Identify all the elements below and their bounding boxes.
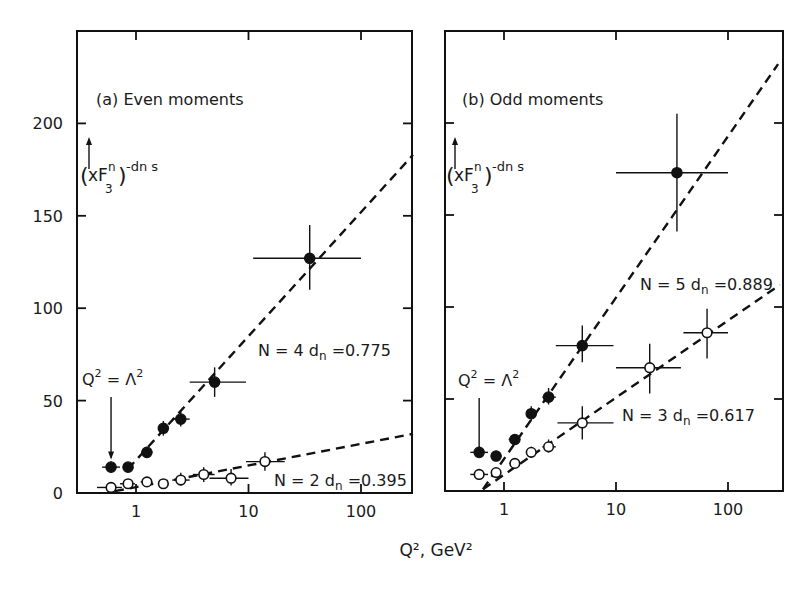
figure: 110100050100150200(a) Even moments(xFn3)… — [0, 0, 811, 589]
svg-text:n: n — [474, 160, 482, 174]
filled-circle-marker — [123, 462, 133, 472]
open-circle-marker — [142, 477, 152, 487]
open-circle-marker — [123, 479, 133, 489]
data-point — [470, 447, 488, 458]
svg-text:Q2 = Λ2: Q2 = Λ2 — [82, 367, 143, 389]
data-point — [683, 309, 728, 359]
open-circle-marker — [260, 457, 270, 467]
data-point — [491, 451, 501, 461]
data-point — [123, 462, 133, 472]
x-tick-label: 100 — [713, 500, 744, 519]
q2-lambda2-annotation: Q2 = Λ2 — [458, 368, 519, 458]
open-circle-marker — [474, 470, 484, 480]
svg-text:-dn s: -dn s — [126, 159, 158, 174]
fit-line — [483, 285, 780, 489]
data-point — [209, 469, 248, 486]
data-point — [491, 468, 501, 478]
arrowhead-icon — [452, 137, 458, 145]
y-axis-label: (xFn3)-dn s — [446, 137, 524, 196]
svg-text:3: 3 — [471, 182, 479, 196]
filled-circle-marker — [577, 340, 587, 350]
data-point — [526, 406, 536, 421]
data-point — [141, 477, 153, 487]
svg-text:-dn s: -dn s — [492, 159, 524, 174]
data-point — [159, 479, 169, 489]
data-point — [246, 452, 285, 470]
open-circle-marker — [526, 448, 536, 458]
filled-circle-marker — [158, 423, 168, 433]
open-circle-marker — [176, 475, 186, 485]
series-label: N = 5 dn =0.889 — [640, 275, 773, 297]
x-axis-label: Q², GeV² — [399, 540, 472, 560]
y-tick-label: 150 — [32, 207, 63, 226]
y-tick-label: 100 — [32, 299, 63, 318]
open-circle-marker — [577, 418, 587, 428]
x-tick-label: 10 — [606, 500, 626, 519]
open-circle-marker — [199, 470, 209, 480]
x-tick-label: 10 — [238, 502, 258, 521]
panel-title: (b) Odd moments — [462, 90, 603, 109]
svg-text:Q2 = Λ2: Q2 = Λ2 — [458, 368, 519, 390]
data-point — [542, 439, 555, 452]
series-label: N = 4 dn =0.775 — [258, 341, 391, 363]
data-point — [102, 462, 120, 473]
svg-text:n: n — [108, 160, 116, 174]
series-n=2: N = 2 dn =0.395 — [97, 434, 413, 493]
panel-odd-moments: 110100(b) Odd moments(xFn3)-dn sQ2 = Λ2N… — [445, 31, 783, 519]
data-point — [172, 412, 189, 427]
arrowhead-icon — [108, 451, 114, 459]
data-point — [526, 447, 536, 458]
open-circle-marker — [544, 442, 554, 452]
series-n=5: N = 5 dn =0.889 — [470, 64, 778, 489]
data-point — [616, 344, 681, 394]
data-point — [142, 447, 153, 458]
open-circle-marker — [106, 483, 116, 493]
filled-circle-marker — [491, 451, 501, 461]
y-tick-label: 50 — [43, 392, 63, 411]
open-circle-marker — [159, 479, 169, 489]
filled-circle-marker — [510, 434, 520, 444]
filled-circle-marker — [142, 447, 152, 457]
series-n=3: N = 3 dn =0.617 — [470, 285, 780, 489]
filled-circle-marker — [209, 377, 219, 387]
y-tick-label: 200 — [32, 114, 63, 133]
panel-even-moments: 110100050100150200(a) Even moments(xFn3)… — [32, 31, 413, 521]
x-tick-label: 100 — [346, 502, 377, 521]
q2-lambda2-annotation: Q2 = Λ2 — [82, 367, 143, 459]
y-tick-label: 0 — [53, 484, 63, 503]
data-point — [557, 406, 613, 439]
filled-circle-marker — [305, 253, 315, 263]
data-point — [470, 469, 488, 480]
series-label: N = 3 dn =0.617 — [622, 406, 755, 428]
y-axis-label: (xFn3)-dn s — [80, 137, 158, 196]
filled-circle-marker — [543, 392, 553, 402]
filled-circle-marker — [106, 462, 116, 472]
data-point — [556, 325, 614, 362]
data-point — [253, 225, 361, 290]
open-circle-marker — [491, 468, 501, 478]
data-point — [616, 114, 728, 232]
chart-canvas: 110100050100150200(a) Even moments(xFn3)… — [0, 0, 811, 589]
open-circle-marker — [645, 363, 655, 373]
data-point — [190, 367, 246, 397]
series-label: N = 2 dn =0.395 — [274, 471, 407, 493]
series-n=4: N = 4 dn =0.775 — [102, 155, 413, 473]
data-point — [509, 434, 521, 445]
data-point — [193, 467, 215, 482]
x-tick-label: 1 — [499, 500, 509, 519]
open-circle-marker — [226, 473, 236, 483]
data-point — [510, 459, 521, 469]
x-tick-label: 1 — [131, 502, 141, 521]
open-circle-marker — [510, 459, 520, 469]
filled-circle-marker — [474, 447, 484, 457]
svg-text:3: 3 — [105, 182, 113, 196]
fit-line — [128, 155, 413, 469]
filled-circle-marker — [672, 167, 682, 177]
arrowhead-icon — [86, 137, 92, 145]
filled-circle-marker — [526, 409, 536, 419]
open-circle-marker — [702, 328, 712, 338]
panel-title: (a) Even moments — [96, 90, 244, 109]
filled-circle-marker — [176, 414, 186, 424]
